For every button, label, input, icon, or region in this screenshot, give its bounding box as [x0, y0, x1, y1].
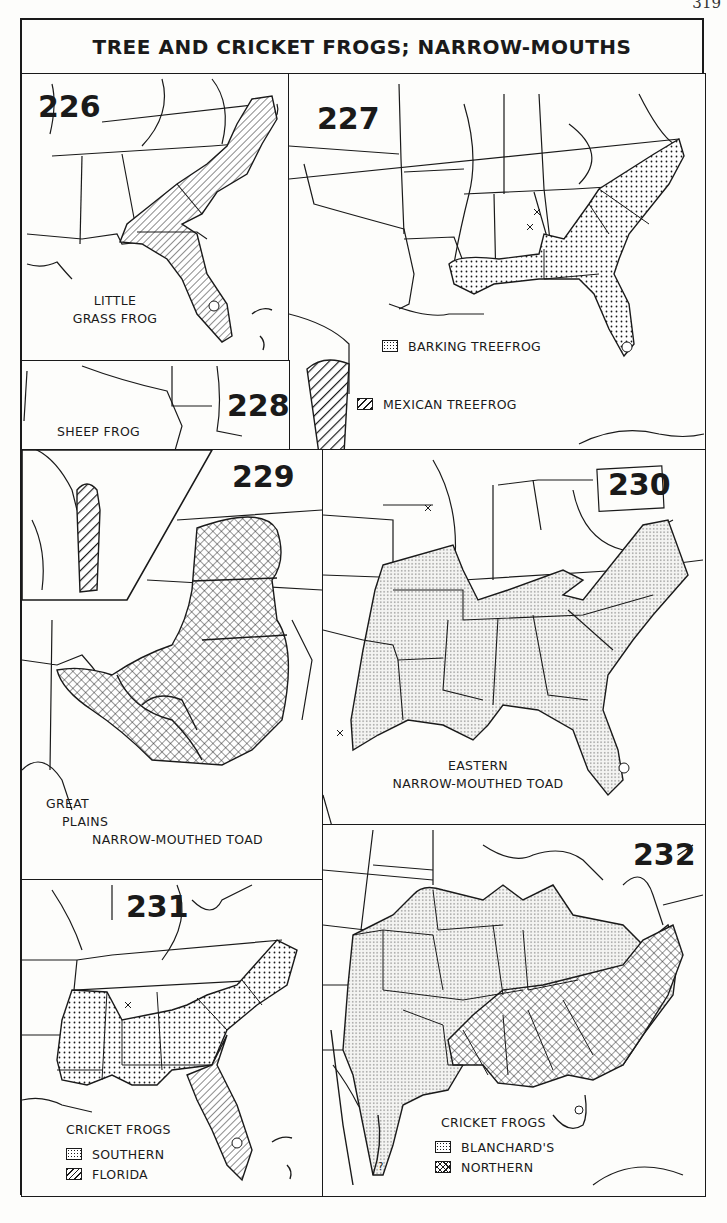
- legend-item: MEXICAN TREEFROG: [357, 394, 517, 414]
- legend: CRICKET FROGS BLANCHARD'S NORTHERN: [435, 1115, 554, 1177]
- map-231-southern-florida-cricket-frogs: 231 CRICKET FROGS SOUTHERN FLORIDA: [21, 879, 323, 1197]
- map-228-sheep-frog: 228 SHEEP FROG: [21, 360, 290, 450]
- legend-item: NORTHERN: [435, 1157, 554, 1177]
- species-label: SHEEP FROG: [57, 423, 140, 441]
- page-number: 319: [692, 0, 721, 12]
- uncertain-range-marker: ?: [378, 1161, 383, 1172]
- legend-item: BLANCHARD'S: [435, 1137, 554, 1157]
- dots-swatch-icon: [382, 340, 398, 352]
- map-number: 227: [317, 104, 380, 134]
- locality-x-markers: [527, 209, 540, 230]
- legend-item: BARKING TREEFROG: [382, 336, 541, 356]
- map-number: 232: [633, 840, 696, 870]
- species-label: EASTERN NARROW-MOUTHED TOAD: [378, 757, 578, 793]
- map-229-great-plains-narrow-mouthed-toad: 229 GREAT PLAINS NARROW-MOUTHED TOAD: [21, 449, 323, 881]
- crosshatch-swatch-icon: [435, 1161, 451, 1173]
- map-number: 231: [126, 892, 189, 922]
- map-number: 230: [608, 470, 671, 500]
- legend: CRICKET FROGS SOUTHERN FLORIDA: [66, 1122, 171, 1184]
- map-plate: TREE AND CRICKET FROGS; NARROW-MOUTHS 22…: [20, 18, 704, 1195]
- dots-swatch-icon: [66, 1148, 82, 1160]
- species-label: LITTLE GRASS FROG: [60, 292, 170, 328]
- map-230-eastern-narrow-mouthed-toad: 230 EASTERN NARROW-MOUTHED TOAD: [322, 449, 706, 826]
- hatch-swatch-icon: [66, 1168, 82, 1180]
- legend-item: SOUTHERN: [66, 1144, 171, 1164]
- map-227-barking-mexican-treefrog: 227 BARKING TREEFROG MEXICAN TREEFROG: [288, 73, 706, 450]
- map-226-little-grass-frog: 226 LITTLE GRASS FROG: [21, 73, 290, 361]
- legend: BARKING TREEFROG: [382, 336, 541, 356]
- plate-title: TREE AND CRICKET FROGS; NARROW-MOUTHS: [22, 20, 702, 76]
- species-label: GREAT PLAINS NARROW-MOUTHED TOAD: [42, 795, 302, 849]
- bold-hatch-swatch-icon: [357, 398, 373, 410]
- legend-item: FLORIDA: [66, 1164, 171, 1184]
- map-number: 226: [38, 92, 101, 122]
- map-number: 228: [227, 391, 290, 421]
- legend: MEXICAN TREEFROG: [357, 394, 517, 414]
- fine-dots-swatch-icon: [435, 1141, 451, 1153]
- map-232-blanchards-northern-cricket-frogs: ? 232 CRICKET FROGS BLANCHARD'S NORTHERN: [322, 824, 706, 1197]
- map-number: 229: [232, 462, 295, 492]
